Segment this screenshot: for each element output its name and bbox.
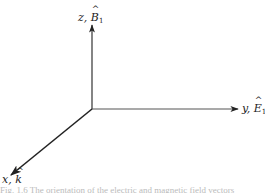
z-axis-label: z, ^B1 bbox=[78, 12, 103, 25]
y-axis-label: y, ^E1 bbox=[242, 103, 265, 116]
figure-caption: Fig. 1.6 The orientation of the electric… bbox=[0, 186, 265, 193]
y-var: y bbox=[242, 102, 247, 115]
x-var: x bbox=[2, 173, 8, 186]
z-var: z bbox=[78, 11, 84, 24]
b-sub: 1 bbox=[99, 17, 103, 25]
coordinate-axes-diagram bbox=[0, 0, 265, 193]
e-hat-vector: ^E bbox=[254, 103, 262, 114]
b-hat-vector: ^B bbox=[91, 12, 99, 23]
hat-icon: ^ bbox=[92, 5, 100, 14]
hat-icon: ^ bbox=[16, 167, 24, 176]
k-hat-vector: ^k bbox=[15, 174, 22, 185]
e-sub: 1 bbox=[262, 108, 265, 116]
hat-icon: ^ bbox=[255, 96, 263, 105]
x-axis-label: x, ^k bbox=[2, 174, 22, 185]
